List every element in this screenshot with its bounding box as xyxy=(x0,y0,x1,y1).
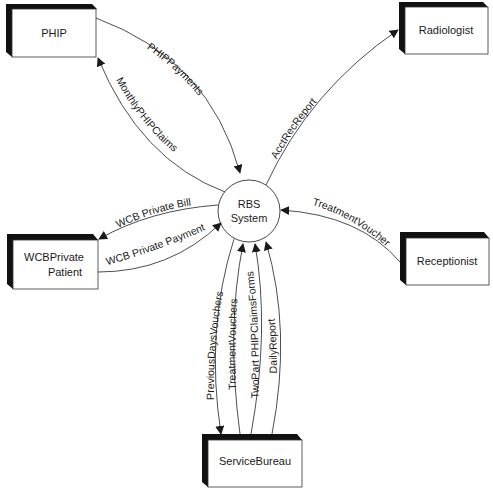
flow-acct-rec-report[interactable] xyxy=(266,30,398,185)
process-rbs-system[interactable]: RBS System xyxy=(218,180,280,242)
entity-radiologist[interactable]: Radiologist xyxy=(399,2,488,54)
flow-label-two-part-phip-claims-forms: TwoPart PHIPClaimsForms xyxy=(243,271,261,399)
flow-label-previous-days-vouchers: PreviousDaysVouchers xyxy=(204,290,225,400)
entity-receptionist-label: Receptionist xyxy=(417,255,478,267)
process-label-line2: System xyxy=(231,212,268,224)
entity-service-bureau[interactable]: ServiceBureau xyxy=(202,434,302,487)
context-diagram: PHIP Radiologist WCBPrivate Patient Rece… xyxy=(0,0,493,493)
entity-wcb-label-line1: WCBPrivate xyxy=(24,251,84,263)
entity-wcb-private-patient[interactable]: WCBPrivate Patient xyxy=(7,234,98,289)
flow-monthly-phip-claims[interactable] xyxy=(98,58,225,192)
entity-receptionist[interactable]: Receptionist xyxy=(400,232,489,285)
flow-label-treatment-vouchers: TreatmentVouchers xyxy=(226,298,240,390)
flow-label-monthly-phip-claims: MonthlyPHIPClaims xyxy=(114,75,180,154)
entity-phip-label: PHIP xyxy=(41,27,67,39)
flow-label-treatment-voucher: TreatmentVoucher xyxy=(311,195,393,248)
entity-phip[interactable]: PHIP xyxy=(6,4,97,57)
flow-label-phip-payments: PHIPPayments xyxy=(145,40,206,97)
flow-label-daily-report: DailyReport xyxy=(265,318,279,373)
entity-service-bureau-label: ServiceBureau xyxy=(219,455,291,467)
flow-label-acct-rec-report: AcctRecReport xyxy=(268,95,319,160)
entity-radiologist-label: Radiologist xyxy=(419,24,473,36)
entity-wcb-label-line2: Patient xyxy=(48,266,82,278)
flow-label-wcb-private-bill: WCB Private Bill xyxy=(114,196,192,230)
process-label-line1: RBS xyxy=(238,198,261,210)
